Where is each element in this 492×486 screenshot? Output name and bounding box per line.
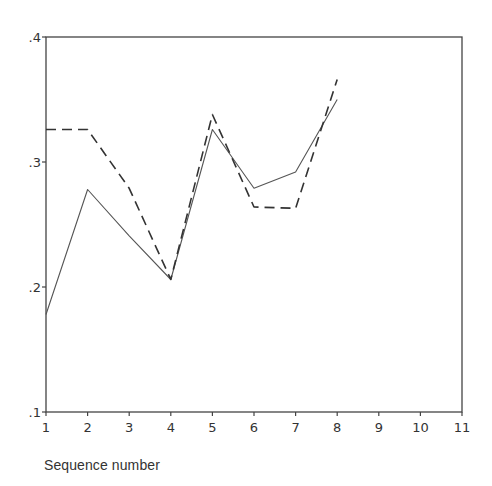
series-dashed-line bbox=[46, 80, 337, 280]
x-axis: 1234567891011 bbox=[42, 412, 470, 435]
y-tick-label: .4 bbox=[29, 30, 41, 45]
x-tick-label: 11 bbox=[454, 420, 471, 435]
x-tick-label: 4 bbox=[167, 420, 175, 435]
plot-frame bbox=[46, 37, 462, 412]
x-axis-label: Sequence number bbox=[44, 457, 160, 473]
x-tick-label: 5 bbox=[208, 420, 216, 435]
x-tick-label: 1 bbox=[42, 420, 50, 435]
x-tick-label: 10 bbox=[412, 420, 429, 435]
x-tick-label: 9 bbox=[375, 420, 383, 435]
y-tick-label: .2 bbox=[29, 280, 41, 295]
series-solid-line bbox=[46, 100, 337, 315]
chart-canvas: .1.2.3.4 1234567891011 bbox=[0, 0, 492, 486]
y-axis: .1.2.3.4 bbox=[29, 30, 46, 420]
x-tick-label: 2 bbox=[83, 420, 91, 435]
x-tick-label: 6 bbox=[250, 420, 258, 435]
line-chart: .1.2.3.4 1234567891011 Sequence number bbox=[0, 0, 492, 486]
y-tick-label: .3 bbox=[29, 155, 41, 170]
plot-border bbox=[46, 37, 462, 412]
x-tick-label: 8 bbox=[333, 420, 341, 435]
data-series bbox=[46, 80, 337, 315]
y-tick-label: .1 bbox=[29, 405, 41, 420]
x-tick-label: 7 bbox=[291, 420, 299, 435]
x-tick-label: 3 bbox=[125, 420, 133, 435]
